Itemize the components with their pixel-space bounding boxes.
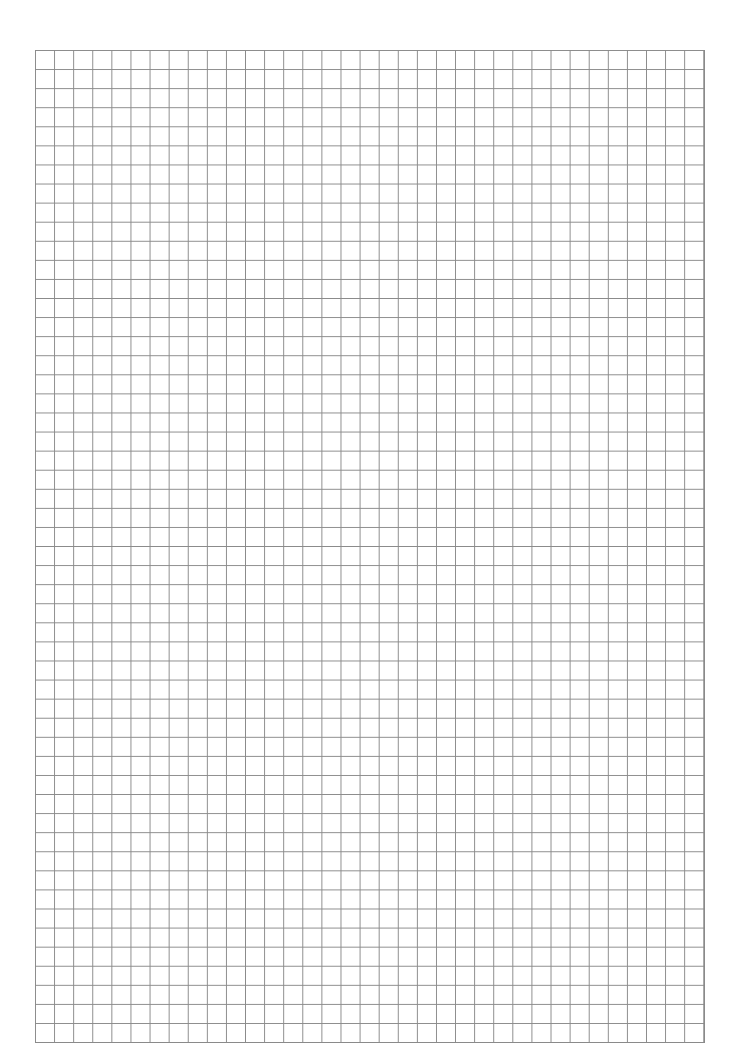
square-grid — [35, 50, 705, 1043]
graph-paper-page — [0, 0, 741, 1062]
